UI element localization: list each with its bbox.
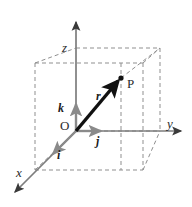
point-p-dot bbox=[118, 75, 123, 80]
y-axis-label: y bbox=[165, 116, 173, 131]
z-axis-label: z bbox=[61, 40, 67, 55]
unit-vector-j-label: j bbox=[94, 134, 100, 148]
box-edge-depth-top-left bbox=[35, 48, 76, 63]
origin-label: O bbox=[60, 118, 69, 133]
vector-diagram-figure: z y x i j k r P O bbox=[0, 0, 192, 207]
point-p-label: P bbox=[127, 76, 134, 91]
x-axis-label: x bbox=[15, 165, 22, 180]
coordinate-system-svg: z y x i j k r P O bbox=[0, 0, 192, 207]
unit-vector-i-label: i bbox=[57, 148, 61, 162]
position-vector-r-label: r bbox=[96, 89, 101, 103]
unit-vector-k-label: k bbox=[58, 101, 64, 115]
box-edge-depth-bottom-right bbox=[143, 131, 160, 170]
